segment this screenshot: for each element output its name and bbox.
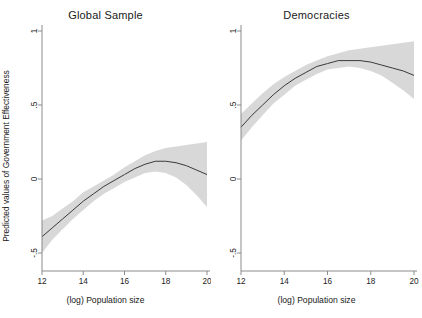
y-tick-label: 1 [30, 28, 39, 33]
y-tick-label: .5 [30, 101, 39, 108]
y-tick-label: 1 [229, 28, 238, 33]
x-axis-label-left: (log) Population size [0, 295, 211, 305]
x-axis-label-right: (log) Population size [211, 295, 422, 305]
confidence-band [241, 41, 414, 140]
x-tick-label: 16 [323, 277, 333, 286]
x-tick-label: 20 [409, 277, 419, 286]
panel-global-sample: Global Sample Predicted values of Govern… [0, 0, 211, 318]
x-tick-label: 16 [120, 277, 130, 286]
x-tick-label: 18 [161, 277, 171, 286]
y-tick-label: -.5 [30, 248, 39, 258]
panel-democracies: Democracies 1.50-.51214161820 (log) Popu… [211, 0, 422, 318]
x-tick-label: 12 [37, 277, 47, 286]
x-tick-label: 12 [236, 277, 246, 286]
x-tick-label: 20 [202, 277, 211, 286]
confidence-band [42, 142, 207, 253]
y-tick-label: 0 [229, 176, 238, 181]
y-tick-label: 0 [30, 176, 39, 181]
y-tick-label: -.5 [229, 248, 238, 258]
x-tick-label: 14 [280, 277, 290, 286]
x-tick-label: 18 [366, 277, 376, 286]
plot-area-democracies: 1.50-.51214161820 [211, 0, 422, 318]
x-tick-label: 14 [79, 277, 89, 286]
figure-canvas: Global Sample Predicted values of Govern… [0, 0, 422, 318]
plot-area-global-sample: 1.50-.51214161820 [0, 0, 211, 318]
y-tick-label: .5 [229, 101, 238, 108]
